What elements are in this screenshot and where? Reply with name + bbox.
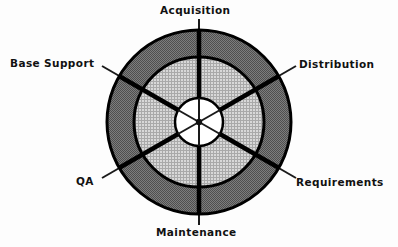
sector-label-acquisition: Acquisition — [160, 5, 231, 16]
sector-label-distribution: Distribution — [299, 59, 374, 70]
sector-label-qa: QA — [76, 176, 94, 187]
wheel-diagram: Acquisition Distribution Requirements Ma… — [0, 0, 398, 247]
sector-label-maintenance: Maintenance — [156, 227, 237, 238]
center-point — [196, 119, 202, 125]
sector-label-base-support: Base Support — [10, 58, 94, 69]
sector-label-requirements: Requirements — [296, 177, 384, 188]
wheel-graphic — [0, 0, 398, 247]
